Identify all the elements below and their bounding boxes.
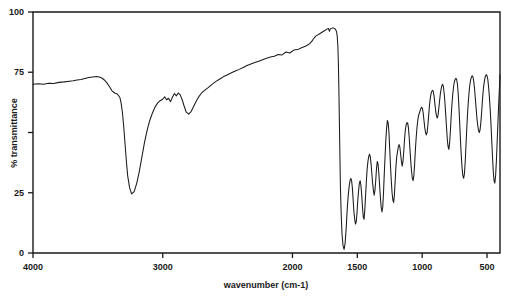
x-tick-label-500: 500 xyxy=(480,262,495,272)
x-tick-label-1000: 1000 xyxy=(412,262,432,272)
y-axis-title: % transmittance xyxy=(9,98,19,168)
x-tick-label-4000: 4000 xyxy=(23,262,43,272)
y-tick-label-25: 25 xyxy=(14,188,24,198)
spectrum-chart: 40003000200015001000500 02575100 wavenum… xyxy=(0,0,512,298)
y-tick-label-0: 0 xyxy=(19,248,24,258)
x-axis-title: wavenumber (cm-1) xyxy=(223,280,309,290)
y-tick-label-75: 75 xyxy=(14,67,24,77)
x-tick-label-2000: 2000 xyxy=(282,262,302,272)
x-tick-label-1500: 1500 xyxy=(347,262,367,272)
ir-spectrum-figure: 40003000200015001000500 02575100 wavenum… xyxy=(0,0,512,298)
y-tick-label-100: 100 xyxy=(9,7,24,17)
x-tick-label-3000: 3000 xyxy=(153,262,173,272)
